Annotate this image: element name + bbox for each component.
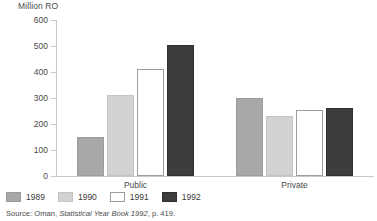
y-tick-label: 400 bbox=[34, 67, 48, 77]
y-tick-label: 100 bbox=[34, 145, 48, 155]
bar-public-1991 bbox=[137, 69, 164, 176]
source-title: Statistical Year Book 1992 bbox=[59, 209, 148, 218]
y-tick-mark bbox=[51, 98, 56, 99]
legend-item-1992[interactable]: 1992 bbox=[162, 192, 201, 202]
legend-label-1990: 1990 bbox=[78, 192, 97, 202]
legend-swatch-1991-icon bbox=[110, 192, 125, 202]
y-tick-label: 200 bbox=[34, 119, 48, 129]
bar-private-1991 bbox=[296, 110, 323, 176]
y-tick-mark bbox=[51, 150, 56, 151]
source-note: Source: Oman, Statistical Year Book 1992… bbox=[6, 209, 175, 218]
legend-item-1991[interactable]: 1991 bbox=[110, 192, 149, 202]
y-tick-mark bbox=[51, 124, 56, 125]
category-label-public: Public bbox=[124, 180, 147, 190]
y-axis-line bbox=[56, 20, 57, 176]
y-tick-mark bbox=[51, 176, 56, 177]
y-tick-mark bbox=[51, 72, 56, 73]
bar-private-1992 bbox=[326, 108, 353, 176]
y-tick-mark bbox=[51, 46, 56, 47]
y-tick-label: 600 bbox=[34, 15, 48, 25]
bar-private-1989 bbox=[236, 98, 263, 176]
bar-public-1990 bbox=[107, 95, 134, 176]
legend-label-1989: 1989 bbox=[26, 192, 45, 202]
y-tick-label: 0 bbox=[43, 171, 48, 181]
bar-chart: Million RO 6005004003002001000 PublicPri… bbox=[0, 0, 377, 221]
source-prefix: Source: Oman, bbox=[6, 209, 59, 218]
bar-public-1989 bbox=[77, 137, 104, 176]
legend-item-1989[interactable]: 1989 bbox=[6, 192, 45, 202]
source-suffix: , p. 419. bbox=[148, 209, 175, 218]
plot-area: 6005004003002001000 PublicPrivate bbox=[56, 20, 374, 176]
legend-swatch-1992-icon bbox=[162, 192, 177, 202]
y-axis-unit-label: Million RO bbox=[18, 1, 58, 11]
legend-swatch-1989-icon bbox=[6, 192, 21, 202]
bar-private-1990 bbox=[266, 116, 293, 176]
legend: 1989 1990 1991 1992 bbox=[6, 192, 214, 202]
x-axis-baseline bbox=[56, 176, 374, 177]
y-tick-mark bbox=[51, 20, 56, 21]
bar-public-1992 bbox=[167, 45, 194, 176]
legend-label-1991: 1991 bbox=[130, 192, 149, 202]
y-tick-label: 500 bbox=[34, 41, 48, 51]
category-label-private: Private bbox=[281, 180, 307, 190]
legend-label-1992: 1992 bbox=[182, 192, 201, 202]
y-tick-label: 300 bbox=[34, 93, 48, 103]
legend-swatch-1990-icon bbox=[58, 192, 73, 202]
legend-item-1990[interactable]: 1990 bbox=[58, 192, 97, 202]
